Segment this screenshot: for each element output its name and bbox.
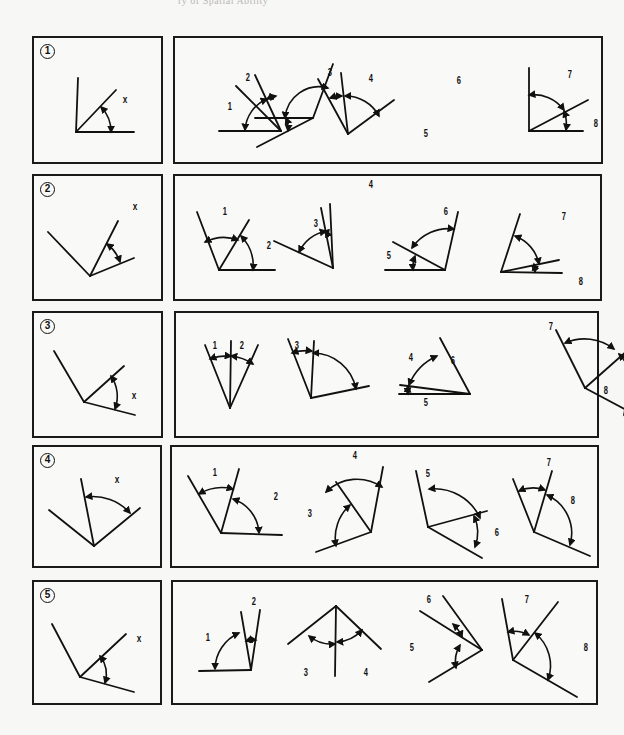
- option-angle-label-8[interactable]: 8: [594, 118, 598, 129]
- option-angle-label-1[interactable]: 1: [213, 340, 217, 351]
- angle-arc-arrow-icon: [519, 488, 545, 491]
- option-angle-label-3[interactable]: 3: [308, 508, 312, 519]
- angle-ray: [336, 606, 381, 649]
- angle-arc-arrow-icon: [534, 264, 535, 272]
- angle-ray: [90, 221, 118, 276]
- angle-arc-arrow-icon: [413, 256, 415, 270]
- option-angle-label-2[interactable]: 2: [246, 72, 250, 83]
- option-angle-label-2[interactable]: 2: [274, 491, 278, 502]
- answer-options-box-4: 12345678: [170, 445, 599, 568]
- angle-ray: [501, 214, 520, 272]
- answer-options-box-2: 12345678: [173, 174, 602, 301]
- option-angle-label-5[interactable]: 5: [424, 128, 428, 139]
- angle-arc-arrow-icon: [564, 111, 566, 130]
- option-angle-label-8[interactable]: 8: [571, 495, 575, 506]
- angle-arc-arrow-icon: [337, 630, 362, 642]
- option-angle-label-4[interactable]: 4: [364, 667, 368, 678]
- option-angle-label-1[interactable]: 1: [223, 206, 227, 217]
- option-angle-label-8[interactable]: 8: [584, 642, 588, 653]
- option-angle-label-7[interactable]: 7: [547, 457, 551, 468]
- angle-ray: [501, 260, 559, 272]
- angle-ray: [84, 402, 135, 415]
- page-header-text: ry of Spatial Ability: [178, 0, 268, 6]
- reference-angle-box-5: 5x: [32, 580, 162, 705]
- angle-arc-arrow-icon: [429, 489, 480, 518]
- option-angle-label-7[interactable]: 7: [549, 321, 553, 332]
- reference-angle-box-1: 1x: [32, 36, 163, 164]
- angle-ray: [443, 596, 482, 650]
- angle-arc-arrow-icon: [285, 87, 328, 118]
- angle-arc-arrow-icon: [529, 95, 564, 110]
- angle-ray: [316, 532, 371, 552]
- angle-arc-arrow-icon: [205, 238, 238, 242]
- option-angle-label-4[interactable]: 4: [353, 450, 357, 461]
- angle-arc-arrow-icon: [565, 339, 614, 349]
- angle-ray: [400, 385, 470, 394]
- reference-angle-figure: [34, 313, 165, 440]
- angle-arc-arrow-icon: [231, 356, 253, 364]
- option-angle-label-4[interactable]: 4: [369, 73, 373, 84]
- answer-options-box-1: 12345678: [173, 36, 603, 164]
- angle-arc-arrow-icon: [111, 376, 117, 409]
- option-angle-label-6[interactable]: 6: [495, 527, 499, 538]
- angle-ray: [188, 476, 221, 533]
- reference-angle-figure: [34, 38, 165, 166]
- option-angle-label-7[interactable]: 7: [562, 211, 566, 222]
- angle-ray: [219, 220, 249, 270]
- angle-arc-arrow-icon: [241, 236, 253, 270]
- angle-ray: [230, 341, 231, 408]
- option-angle-label-8[interactable]: 8: [579, 276, 583, 287]
- angle-ray: [513, 479, 534, 532]
- option-angle-label-5[interactable]: 5: [426, 468, 430, 479]
- option-angle-label-2[interactable]: 2: [267, 240, 271, 251]
- angle-ray: [90, 258, 134, 276]
- option-angle-label-6[interactable]: 6: [444, 206, 448, 217]
- angle-ray: [76, 78, 78, 132]
- option-angle-label-4[interactable]: 4: [369, 179, 373, 190]
- angle-arc-arrow-icon: [86, 497, 130, 513]
- option-angle-label-1[interactable]: 1: [206, 632, 210, 643]
- angle-arc-arrow-icon: [309, 636, 335, 644]
- angle-ray: [502, 599, 513, 660]
- angle-ray: [48, 232, 90, 276]
- angle-ray: [534, 471, 552, 532]
- option-angle-label-3[interactable]: 3: [328, 67, 332, 78]
- angle-arc-arrow-icon: [267, 96, 276, 99]
- option-angle-label-4[interactable]: 4: [409, 352, 413, 363]
- angle-arc-arrow-icon: [326, 479, 382, 492]
- option-angle-label-6[interactable]: 6: [427, 594, 431, 605]
- option-angle-label-5[interactable]: 5: [387, 250, 391, 261]
- option-angle-label-1[interactable]: 1: [228, 101, 232, 112]
- reference-angle-label: x: [123, 93, 128, 105]
- option-angle-label-8[interactable]: 8: [604, 385, 608, 396]
- option-angle-label-2[interactable]: 2: [252, 596, 256, 607]
- angle-ray: [428, 527, 482, 558]
- option-angle-label-6[interactable]: 6: [451, 355, 455, 366]
- angle-arc-arrow-icon: [330, 96, 342, 98]
- angle-arc-arrow-icon: [199, 488, 233, 494]
- answer-options-figure: [172, 447, 601, 570]
- angle-ray: [445, 212, 458, 270]
- angle-ray: [311, 386, 369, 398]
- angle-arc-arrow-icon: [345, 96, 379, 116]
- option-angle-label-3[interactable]: 3: [295, 340, 299, 351]
- reference-angle-label: x: [137, 632, 142, 644]
- option-angle-label-7[interactable]: 7: [525, 594, 529, 605]
- angle-ray: [534, 532, 590, 556]
- option-angle-label-1[interactable]: 1: [213, 467, 217, 478]
- reference-angle-label: x: [115, 473, 120, 485]
- option-angle-label-3[interactable]: 3: [304, 667, 308, 678]
- angle-ray: [257, 118, 313, 147]
- reference-angle-figure: [34, 447, 164, 570]
- option-angle-label-5[interactable]: 5: [410, 642, 414, 653]
- option-angle-label-5[interactable]: 5: [424, 397, 428, 408]
- option-angle-label-2[interactable]: 2: [240, 340, 244, 351]
- angle-ray: [205, 345, 230, 408]
- reference-angle-box-4: 4x: [32, 445, 162, 568]
- option-angle-label-3[interactable]: 3: [314, 218, 318, 229]
- angle-ray: [52, 624, 80, 677]
- option-angle-label-6[interactable]: 6: [457, 75, 461, 86]
- angle-ray: [335, 606, 336, 676]
- option-angle-label-7[interactable]: 7: [568, 69, 572, 80]
- angle-ray: [80, 677, 134, 692]
